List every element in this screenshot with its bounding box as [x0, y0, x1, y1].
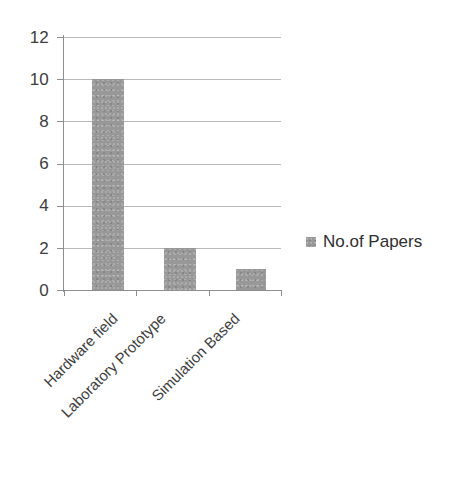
y-tick-label-10: 10	[30, 71, 49, 88]
gridline-12	[64, 37, 281, 38]
y-tick-label-2: 2	[39, 240, 49, 257]
y-tick-label-0: 0	[39, 282, 49, 299]
x-axis-tick-mark	[64, 290, 65, 296]
legend: No.of Papers	[306, 233, 422, 251]
x-axis-tick-mark	[281, 290, 282, 296]
x-category-label-simulation-based: Simulation Based	[108, 310, 243, 445]
x-axis-tick-mark	[209, 290, 210, 296]
y-tick-label-4: 4	[39, 197, 49, 214]
bar-laboratory-prototype[interactable]	[164, 248, 196, 290]
x-axis-tick-mark	[136, 290, 137, 296]
bar-hardware-field[interactable]	[92, 79, 124, 290]
plot-area	[64, 37, 281, 290]
bar-simulation-based[interactable]	[236, 269, 266, 290]
x-axis-line	[63, 290, 282, 291]
bar-chart: 12 10 8 6 4 2 0 Hardware field Laborator…	[0, 0, 457, 480]
legend-swatch-icon	[306, 237, 316, 247]
y-tick-label-8: 8	[39, 113, 49, 130]
legend-label-no-of-papers: No.of Papers	[323, 233, 422, 251]
y-tick-label-6: 6	[39, 155, 49, 172]
y-tick-label-12: 12	[30, 29, 49, 46]
